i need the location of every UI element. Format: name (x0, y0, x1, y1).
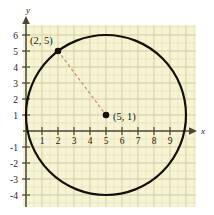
y-tick-label: 2 (13, 95, 18, 105)
y-tick-labels: 6 5 4 3 2 1 -1 -2 -3 -4 (10, 31, 18, 201)
y-tick-label: 5 (13, 47, 18, 57)
x-tick-label: 2 (56, 136, 61, 146)
point-on-circle-label: (2, 5) (30, 35, 53, 47)
y-tick-label: -3 (10, 175, 18, 185)
coordinate-plane-svg: 1 2 3 4 5 6 7 8 9 6 5 4 3 2 1 -1 -2 -3 -… (0, 0, 214, 215)
y-tick-label: -1 (10, 143, 18, 153)
center-point-label: (5, 1) (113, 111, 136, 123)
x-tick-label: 7 (136, 136, 141, 146)
x-tick-labels: 1 2 3 4 5 6 7 8 9 (40, 136, 173, 146)
x-axis-label: x (200, 126, 205, 136)
y-tick-label: -4 (10, 191, 18, 201)
y-tick-label: 4 (13, 63, 18, 73)
x-tick-label: 5 (104, 136, 109, 146)
x-tick-label: 1 (40, 136, 45, 146)
y-tick-label: 1 (13, 111, 18, 121)
center-point-marker[interactable] (103, 112, 110, 119)
circle-graph-figure: 1 2 3 4 5 6 7 8 9 6 5 4 3 2 1 -1 -2 -3 -… (0, 0, 214, 215)
x-tick-label: 3 (72, 136, 77, 146)
x-tick-label: 9 (168, 136, 173, 146)
x-tick-label: 8 (152, 136, 157, 146)
y-tick-label: -2 (10, 159, 18, 169)
y-axis-arrowhead (22, 16, 30, 24)
y-tick-label: 3 (13, 79, 18, 89)
point-on-circle-marker[interactable] (55, 48, 62, 55)
x-tick-label: 6 (120, 136, 125, 146)
y-tick-label: 6 (13, 31, 18, 41)
y-axis-label: y (25, 5, 30, 15)
x-tick-label: 4 (88, 136, 93, 146)
